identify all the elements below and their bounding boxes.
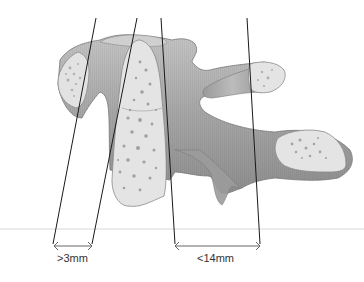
- measurement-right: [175, 242, 260, 250]
- lower-process-cancellous-section: [275, 130, 346, 172]
- measurement-left: [54, 242, 92, 250]
- vertebra-diagram: >3mm <14mm: [0, 0, 364, 282]
- bone-body: [58, 35, 352, 205]
- measurement-label-left: >3mm: [57, 252, 88, 264]
- measurement-label-right: <14mm: [197, 252, 234, 264]
